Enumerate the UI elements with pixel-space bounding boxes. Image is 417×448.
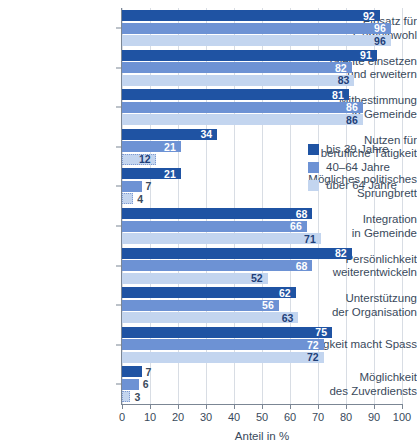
bar	[122, 193, 133, 204]
category-label-line: Unterstützung	[303, 292, 417, 306]
bar	[122, 300, 279, 311]
x-tick-label-10: 10	[144, 411, 156, 423]
bar-value-label: 52	[251, 273, 263, 284]
x-tick-30	[206, 404, 207, 409]
bar	[122, 312, 298, 323]
bar-value-label: 72	[307, 339, 319, 350]
bar	[122, 221, 307, 232]
bar-value-label: 7	[146, 366, 152, 377]
bar-value-label: 71	[304, 233, 316, 244]
bar-value-label: 63	[282, 312, 294, 323]
bar-value-label: 81	[332, 89, 344, 100]
x-tick-label-40: 40	[228, 411, 240, 423]
x-tick-10	[150, 404, 151, 409]
bar	[122, 327, 332, 338]
x-tick-100	[402, 404, 403, 409]
legend-item[interactable]: über 64 Jahre	[308, 177, 397, 193]
bar	[122, 233, 321, 244]
category-tick	[116, 146, 121, 147]
bar-value-label: 56	[262, 300, 274, 311]
bar-value-label: 6	[143, 379, 149, 390]
bar-value-label: 21	[164, 141, 176, 152]
x-tick-label-80: 80	[340, 411, 352, 423]
category-label: Möglichkeitdes Zuverdiensts	[303, 371, 417, 398]
bar-value-label: 21	[164, 168, 176, 179]
bar-value-label: 62	[279, 287, 291, 298]
x-tick-20	[178, 404, 179, 409]
category-tick	[116, 265, 121, 266]
bar	[122, 35, 391, 46]
legend-swatch-icon	[308, 144, 319, 155]
category-tick	[116, 344, 121, 345]
bar	[122, 89, 349, 100]
x-tick-70	[318, 404, 319, 409]
bar-value-label: 91	[360, 50, 372, 61]
x-tick-label-0: 0	[119, 411, 125, 423]
bar-value-label: 7	[146, 181, 152, 192]
grouped-bar-chart: Einsatz für GemeinwohlTalente einsetzenu…	[0, 0, 417, 448]
category-tick	[116, 107, 121, 108]
bar-value-label: 92	[363, 10, 375, 21]
bar-value-label: 68	[296, 208, 308, 219]
legend-item[interactable]: bis 39 Jahre	[308, 141, 397, 157]
x-tick-0	[122, 404, 123, 409]
category-label-line: des Zuverdiensts	[303, 384, 417, 398]
bar-value-label: 83	[338, 75, 350, 86]
bar-value-label: 72	[307, 352, 319, 363]
bar	[122, 366, 142, 377]
bar-value-label: 3	[134, 391, 140, 402]
bar-value-label: 82	[335, 248, 347, 259]
bar	[122, 273, 268, 284]
category-tick	[116, 384, 121, 385]
bar	[122, 391, 130, 402]
bar-value-label: 86	[346, 102, 358, 113]
category-tick	[116, 67, 121, 68]
bar-value-label: 82	[335, 62, 347, 73]
bar-value-label: 86	[346, 114, 358, 125]
bar	[122, 75, 354, 86]
x-tick-label-30: 30	[200, 411, 212, 423]
bar	[122, 352, 324, 363]
bar	[122, 260, 312, 271]
category-label: Unterstützungder Organisation	[303, 292, 417, 319]
x-axis-title: Anteil in %	[122, 430, 402, 442]
bar-value-label: 68	[296, 260, 308, 271]
category-tick	[116, 305, 121, 306]
x-tick-80	[346, 404, 347, 409]
legend-item-label: 40–64 Jahre	[326, 161, 390, 173]
legend-swatch-icon	[308, 162, 319, 173]
bar-value-label: 96	[374, 23, 386, 34]
bar	[122, 208, 312, 219]
legend-item[interactable]: 40–64 Jahre	[308, 159, 397, 175]
bar	[122, 339, 324, 350]
category-label-line: Integration	[303, 213, 417, 227]
bar	[122, 10, 380, 21]
x-tick-label-90: 90	[368, 411, 380, 423]
bar	[122, 248, 352, 259]
bar	[122, 379, 139, 390]
legend-item-label: über 64 Jahre	[326, 179, 397, 191]
category-tick	[116, 226, 121, 227]
category-label-line: weiterentwickeln	[303, 266, 417, 280]
bar	[122, 287, 296, 298]
x-tick-50	[262, 404, 263, 409]
bar-value-label: 75	[315, 327, 327, 338]
chart-legend: bis 39 Jahre40–64 Jahreüber 64 Jahre	[308, 141, 397, 195]
x-tick-label-60: 60	[284, 411, 296, 423]
legend-item-label: bis 39 Jahre	[326, 143, 389, 155]
category-label-line: der Organisation	[303, 305, 417, 319]
bar	[122, 114, 363, 125]
bar	[122, 23, 391, 34]
category-label-line: Möglichkeit	[303, 371, 417, 385]
bar	[122, 181, 142, 192]
x-tick-label-20: 20	[172, 411, 184, 423]
bar-value-label: 12	[139, 154, 151, 165]
bar	[122, 102, 363, 113]
x-tick-60	[290, 404, 291, 409]
x-tick-label-100: 100	[393, 411, 411, 423]
bar-value-label: 4	[137, 193, 143, 204]
bar-value-label: 66	[290, 221, 302, 232]
x-tick-40	[234, 404, 235, 409]
bar	[122, 62, 352, 73]
bar	[122, 50, 377, 61]
